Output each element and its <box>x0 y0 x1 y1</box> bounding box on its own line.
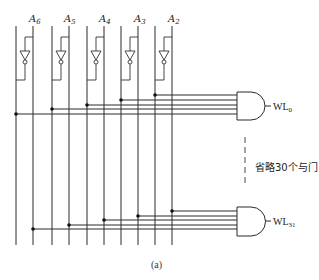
junction-dot <box>119 98 123 102</box>
input-label-a3: A3 <box>133 13 146 26</box>
inverter-a6 <box>16 37 33 80</box>
input-label-a6: A6 <box>28 13 41 26</box>
inverters <box>16 37 172 80</box>
junction-dot <box>170 209 174 213</box>
figure-caption: (a) <box>151 259 162 271</box>
omitted-gates-note: 省略30个与门 <box>245 137 318 184</box>
junction-dot <box>50 107 54 111</box>
junction-dot <box>85 103 89 107</box>
omitted-note-text: 省略30个与门 <box>255 161 318 173</box>
junction-dot <box>153 93 157 97</box>
input-labels: A6 A5 A4 A3 A2 <box>28 13 180 26</box>
output-label-wl31: WL31 <box>273 216 296 229</box>
junction-dot <box>14 112 18 116</box>
inverter-a2 <box>155 37 172 80</box>
vertical-bus-lines <box>16 26 172 245</box>
inverter-a3 <box>121 37 138 80</box>
input-label-a5: A5 <box>63 13 76 26</box>
inverter-a5 <box>52 37 69 80</box>
output-label-wl0: WL0 <box>273 101 293 114</box>
and-gate-wl31: WL31 <box>31 207 296 236</box>
input-label-a2: A2 <box>167 13 180 26</box>
decoder-diagram: A6 A5 A4 A3 A2 <box>0 0 319 280</box>
junction-dot <box>67 223 71 227</box>
inverter-a4 <box>87 37 104 80</box>
input-label-a4: A4 <box>98 13 111 26</box>
junction-dot <box>31 227 35 231</box>
junction-dot <box>102 218 106 222</box>
junction-dot <box>136 214 140 218</box>
and-gate-wl0: WL0 <box>14 92 292 120</box>
